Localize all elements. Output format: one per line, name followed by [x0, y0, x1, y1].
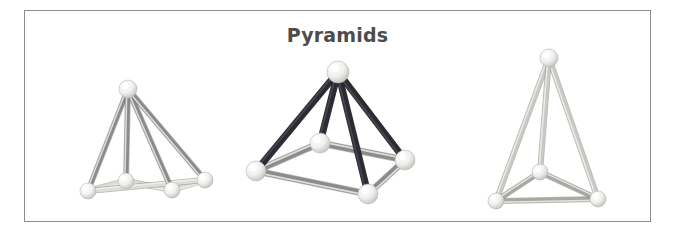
base-vertex-joint [532, 164, 548, 180]
figure-root: Pyramids [0, 0, 675, 234]
pyramid-model-square-three-quarter [246, 61, 415, 204]
base-vertex-joint [197, 172, 213, 188]
base-vertex-joint [488, 193, 504, 209]
base-edge-strut [496, 199, 598, 202]
apex-vertex-joint [327, 61, 349, 83]
base-vertex-joint [310, 133, 330, 153]
base-vertex-joint [80, 183, 96, 199]
lateral-edge-strut [127, 89, 205, 181]
base-vertex-joint [358, 184, 378, 204]
lateral-edge-strut [125, 89, 128, 181]
base-vertex-joint [395, 150, 415, 170]
pyramid-model-tetrahedron [488, 49, 606, 209]
apex-vertex-joint [540, 49, 558, 67]
base-edge-strut [256, 171, 368, 195]
apex-vertex-joint [119, 80, 137, 98]
pyramid-models-illustration [0, 0, 675, 234]
lateral-edge-strut [127, 89, 172, 190]
base-vertex-joint [164, 182, 180, 198]
base-vertex-joint [246, 161, 266, 181]
base-vertex-joint [118, 173, 134, 189]
pyramid-model-square-edge-on [80, 80, 213, 199]
base-vertex-joint [590, 191, 606, 207]
